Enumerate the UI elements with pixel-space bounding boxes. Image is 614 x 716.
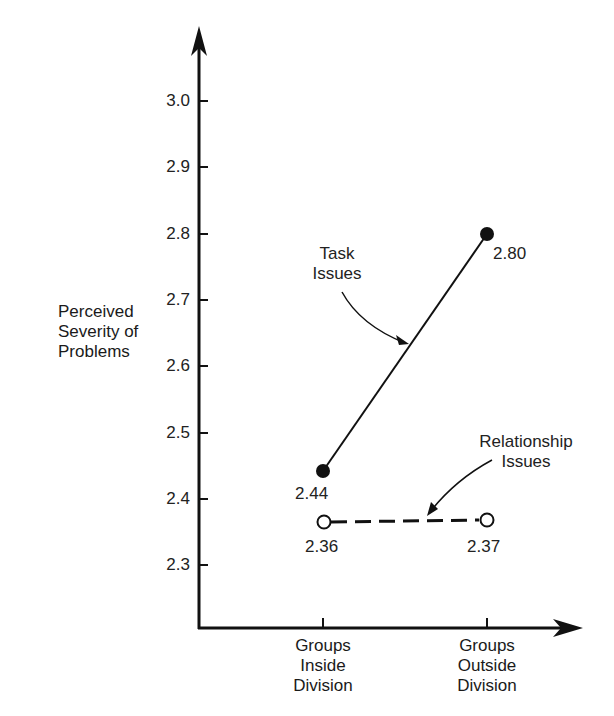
y-tick-label: 2.8 (130, 224, 190, 244)
y-tick-label: 2.7 (130, 290, 190, 310)
x-category-inside-division: Groups Inside Division (263, 636, 383, 696)
x-category-outside-division: Groups Outside Division (427, 636, 547, 696)
task-issues-value-outside: 2.80 (493, 244, 526, 264)
relationship-issues-value-inside: 2.36 (305, 537, 338, 557)
relationship-issues-point-inside (318, 516, 331, 529)
relationship-issues-value-outside: 2.37 (467, 537, 500, 557)
task-issues-annotation: Task Issues (297, 244, 377, 284)
x-category-line: Division (263, 676, 383, 696)
relationship-issues-annotation: Relationship Issues (466, 432, 586, 472)
annotation-line: Issues (297, 264, 377, 284)
relationship-issues-point-outside (481, 514, 494, 527)
task-issues-annotation-arrow (342, 292, 405, 343)
task-issues-value-inside: 2.44 (295, 484, 328, 504)
y-tick-label: 2.5 (130, 423, 190, 443)
y-tick-label: 3.0 (130, 91, 190, 111)
relationship-issues-line (331, 520, 479, 522)
y-tick-label: 2.9 (130, 157, 190, 177)
y-axis-title-line: Perceived (58, 302, 138, 322)
x-category-line: Outside (427, 656, 547, 676)
y-tick-label: 2.3 (130, 555, 190, 575)
y-tick-label: 2.4 (130, 489, 190, 509)
task-issues-point-outside (480, 227, 494, 241)
y-axis-title-line: Severity of (58, 322, 138, 342)
annotation-line: Relationship (466, 432, 586, 452)
x-category-line: Groups (427, 636, 547, 656)
y-tick-label: 2.6 (130, 356, 190, 376)
x-category-line: Groups (263, 636, 383, 656)
x-category-line: Division (427, 676, 547, 696)
annotation-line: Task (297, 244, 377, 264)
task-issues-arrowhead-icon (396, 335, 409, 345)
x-category-line: Inside (263, 656, 383, 676)
y-axis-title-line: Problems (58, 342, 138, 362)
annotation-line: Issues (466, 452, 586, 472)
task-issues-point-inside (316, 464, 330, 478)
y-axis-title: Perceived Severity of Problems (58, 302, 138, 362)
